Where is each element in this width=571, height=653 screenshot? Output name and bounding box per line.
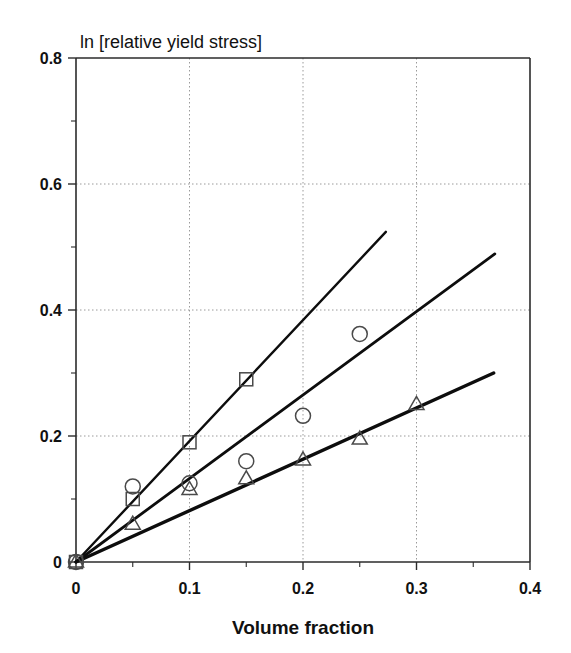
- scatter-chart: 00.20.40.60.8 00.10.20.30.4 ln [relative…: [0, 0, 571, 653]
- y-tick-label: 0.2: [40, 428, 62, 445]
- y-tick-label: 0.6: [40, 176, 62, 193]
- y-tick-label: 0: [53, 554, 62, 571]
- x-tick-label: 0: [72, 580, 81, 597]
- y-tick-label: 0.8: [40, 50, 62, 67]
- plot-title: ln [relative yield stress]: [80, 32, 262, 52]
- x-tick-label: 0.3: [405, 580, 427, 597]
- figure-container: 00.20.40.60.8 00.10.20.30.4 ln [relative…: [0, 0, 571, 653]
- x-tick-label: 0.1: [178, 580, 200, 597]
- y-tick-label: 0.4: [40, 302, 62, 319]
- x-tick-label: 0.4: [519, 580, 541, 597]
- x-tick-label: 0.2: [292, 580, 314, 597]
- x-axis-title: Volume fraction: [232, 617, 374, 638]
